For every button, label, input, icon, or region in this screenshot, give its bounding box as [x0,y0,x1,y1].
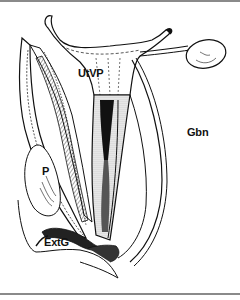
label-p: P [42,165,49,177]
label-utvp: UtVP [78,67,103,79]
bottom-border-rule [0,293,240,295]
uterovaginal-primordium [45,16,172,95]
anatomical-figure [0,0,240,300]
label-gbn: Gbn [187,126,208,138]
vaginal-canal [92,95,130,240]
label-extg: ExtG [44,236,69,248]
gonad [184,36,229,72]
pubis-shape [25,145,61,216]
